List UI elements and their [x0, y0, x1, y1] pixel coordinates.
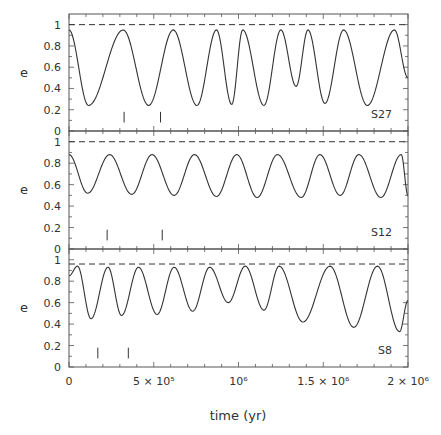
plot-frame [69, 131, 408, 249]
x-tick-label: 1.5 × 10⁶ [297, 375, 350, 388]
y-tick-label: 0.4 [44, 82, 62, 95]
y-tick-label: 0.2 [44, 340, 62, 353]
panel-label: S8 [378, 344, 392, 357]
y-axis-label: e [20, 182, 28, 197]
x-tick-label: 10⁶ [229, 375, 248, 388]
y-tick-label: 0.4 [44, 318, 62, 331]
x-axis-label: time (yr) [210, 408, 267, 423]
y-tick-label: 0 [54, 361, 61, 374]
y-tick-label: 0.6 [44, 179, 62, 192]
y-axis-label: e [20, 300, 28, 315]
y-tick-label: 0.6 [44, 297, 62, 310]
panel-s12: 00.20.40.60.81eS12 [20, 131, 408, 256]
panels: 00.20.40.60.81eS2700.20.40.60.81eS1200.2… [20, 14, 408, 374]
plot-frame [69, 249, 408, 367]
y-tick-label: 0.6 [44, 61, 62, 74]
panel-s27: 00.20.40.60.81eS27 [20, 14, 408, 138]
y-tick-label: 0.2 [44, 222, 62, 235]
eccentricity-figure: 00.20.40.60.81eS2700.20.40.60.81eS1200.2… [0, 0, 441, 435]
eccentricity-curve [69, 266, 408, 331]
eccentricity-curve [69, 155, 408, 198]
y-tick-label: 1 [54, 136, 61, 149]
panel-label: S27 [371, 108, 392, 121]
x-tick-label: 5 × 10⁵ [133, 375, 175, 388]
y-tick-label: 0.8 [44, 275, 62, 288]
x-tick-label: 2 × 10⁶ [387, 375, 429, 388]
x-tick-label: 0 [66, 375, 73, 388]
y-tick-label: 1 [54, 19, 61, 32]
y-tick-label: 0.8 [44, 40, 62, 53]
y-tick-label: 0.8 [44, 157, 62, 170]
y-tick-label: 0.2 [44, 104, 62, 117]
y-axis-label: e [20, 65, 28, 80]
panel-s8: 00.20.40.60.81eS8 [20, 249, 408, 374]
eccentricity-curve [69, 30, 408, 106]
y-tick-label: 1 [54, 254, 61, 267]
panel-label: S12 [371, 226, 392, 239]
x-tick-labels: 05 × 10⁵10⁶1.5 × 10⁶2 × 10⁶ [66, 375, 430, 388]
y-tick-label: 0.4 [44, 200, 62, 213]
